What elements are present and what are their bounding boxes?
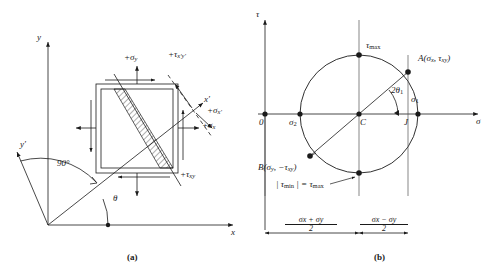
- origin-label: 0: [259, 118, 264, 127]
- axis-label-x-prime: x′: [204, 95, 210, 104]
- tau-max-label: τmax: [366, 41, 380, 51]
- sigma-2-label: σ2: [289, 118, 297, 128]
- axis-label-y-prime: y′: [20, 140, 26, 149]
- dimension-left-fraction: σx + σy 2: [285, 216, 337, 234]
- axis-label-sigma: σ: [476, 117, 480, 126]
- axis-label-x: x: [231, 228, 235, 237]
- sigma-xprime-label: +σx′: [207, 106, 222, 116]
- center-c-label: C: [360, 118, 366, 127]
- point-b-label: B(σy, −τxy): [258, 163, 296, 173]
- dimension-right-fraction: σx − σy 2: [360, 216, 408, 234]
- tau-xprime-yprime-label: +τx′y′: [168, 50, 186, 60]
- caption-b: (b): [374, 252, 385, 262]
- two-theta-1-label: 2θ1: [391, 86, 403, 96]
- panel-a-graphics: [17, 42, 233, 227]
- right-angle-label: 90°: [57, 159, 70, 168]
- figure-container: y x y′ x′ 90° θ +σy +σx +τxy +τx′y′ +σx′…: [0, 0, 502, 274]
- axis-label-y: y: [37, 33, 41, 42]
- point-j-label: J: [404, 118, 408, 127]
- caption-a: (a): [127, 252, 138, 262]
- axis-label-tau: τ: [256, 10, 259, 19]
- point-a-label: A(σx, τxy): [418, 54, 450, 64]
- theta-angle-label: θ: [113, 194, 117, 203]
- sigma-1-label: σ1: [411, 95, 419, 105]
- sigma-y-label: +σy: [124, 53, 137, 63]
- tau-min-equals-label: | τmin | = τmax: [276, 180, 324, 190]
- figure-vector-graphics: [0, 0, 502, 274]
- tau-xy-label: +τxy: [180, 170, 195, 180]
- sigma-x-label: +σx: [202, 121, 215, 131]
